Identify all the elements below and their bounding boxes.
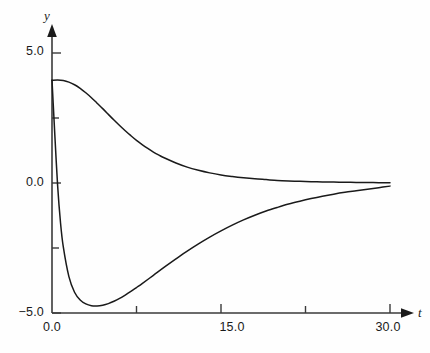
y-tick-label-middle: 0.0 [10,175,44,189]
tick-marks-group [52,53,390,313]
curve-upper-decay-curve [52,80,390,183]
y-tick-label-bottom: −5.0 [4,305,44,319]
x-tick-label-end: 30.0 [366,320,410,334]
axes-group [47,24,414,318]
y-tick-label-top: 5.0 [10,44,44,58]
figure-container: 5.0 0.0 −5.0 0.0 15.0 30.0 y t [0,0,430,353]
x-axis-label: t [418,305,422,321]
plot-canvas [0,0,430,353]
y-axis-arrow-icon [47,24,57,37]
x-axis-arrow-icon [401,308,414,318]
x-tick-label-middle: 15.0 [210,320,254,334]
data-curves-group [52,80,390,306]
x-tick-label-start: 0.0 [32,320,72,334]
curve-lower-undershoot-curve [52,80,390,306]
y-axis-label: y [44,8,50,24]
